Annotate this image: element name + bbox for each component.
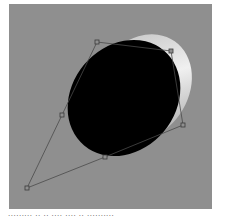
anchor-point-handle[interactable] <box>60 113 64 117</box>
anchor-point-handle[interactable] <box>103 155 107 159</box>
shape-illustration <box>0 0 225 218</box>
figure-caption: ········· ·· ·· ···· ···· ·· ·········· <box>8 212 218 218</box>
anchor-point-handle[interactable] <box>169 49 173 53</box>
anchor-point-handle[interactable] <box>181 123 185 127</box>
anchor-point-handle[interactable] <box>25 186 29 190</box>
anchor-point-handle[interactable] <box>95 40 99 44</box>
